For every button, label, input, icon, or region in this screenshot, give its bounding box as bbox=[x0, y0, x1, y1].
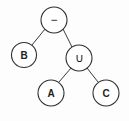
operand-a-label: A bbox=[47, 88, 54, 99]
edge-root-union bbox=[63, 29, 72, 47]
node-b: B bbox=[12, 43, 37, 68]
operand-c-label: C bbox=[102, 88, 109, 99]
edge-root-b bbox=[32, 29, 45, 45]
edge-union-c bbox=[87, 68, 98, 82]
node-union: ∪ bbox=[66, 45, 92, 71]
node-root: − bbox=[41, 7, 67, 33]
minus-operator-label: − bbox=[50, 13, 57, 27]
operand-b-label: B bbox=[20, 50, 27, 61]
edge-union-a bbox=[59, 68, 71, 82]
node-c: C bbox=[93, 80, 119, 106]
expression-tree: − B ∪ A C bbox=[0, 0, 129, 121]
union-operator-label: ∪ bbox=[75, 51, 84, 65]
node-a: A bbox=[38, 80, 64, 106]
diagram-canvas: − B ∪ A C bbox=[0, 0, 129, 121]
